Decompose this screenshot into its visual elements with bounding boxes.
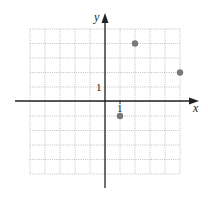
data-point (177, 69, 183, 75)
data-point (117, 113, 123, 119)
x-axis-label: x (192, 101, 199, 115)
data-point (132, 40, 138, 46)
y-axis-label: y (93, 10, 100, 24)
coordinate-plane: x y 1 1 (0, 0, 208, 197)
y-axis-arrow-icon (102, 13, 109, 23)
y-unit-tick-label: 1 (96, 81, 102, 93)
axes (15, 13, 199, 188)
